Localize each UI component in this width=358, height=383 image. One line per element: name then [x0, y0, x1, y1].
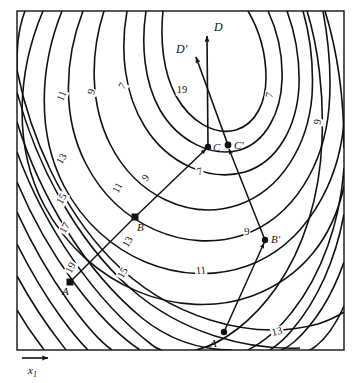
point-marker-A-prime [221, 329, 227, 335]
point-label-A: A [62, 285, 69, 297]
contour-level-label: 11 [194, 265, 207, 277]
point-label-A-prime: A' [210, 337, 219, 349]
axis-label-x1: x1 [28, 364, 37, 379]
point-label-C: C [213, 141, 220, 153]
point-marker-B-prime [262, 237, 268, 243]
point-label-C-prime: C' [234, 139, 244, 151]
vector-label-D: D [214, 20, 223, 35]
contour-level-label: 9 [312, 118, 324, 127]
point-marker-C-prime [225, 142, 232, 149]
vector-label-D-prime: D' [176, 42, 187, 57]
contour-level-label: 19 [176, 85, 189, 96]
point-label-B: B [137, 221, 144, 233]
contour-level-label: 9 [243, 227, 251, 238]
point-marker-C [205, 144, 211, 150]
contour-plot-figure [0, 0, 358, 383]
point-marker-B [132, 214, 139, 221]
point-label-B-prime: B' [271, 233, 280, 245]
